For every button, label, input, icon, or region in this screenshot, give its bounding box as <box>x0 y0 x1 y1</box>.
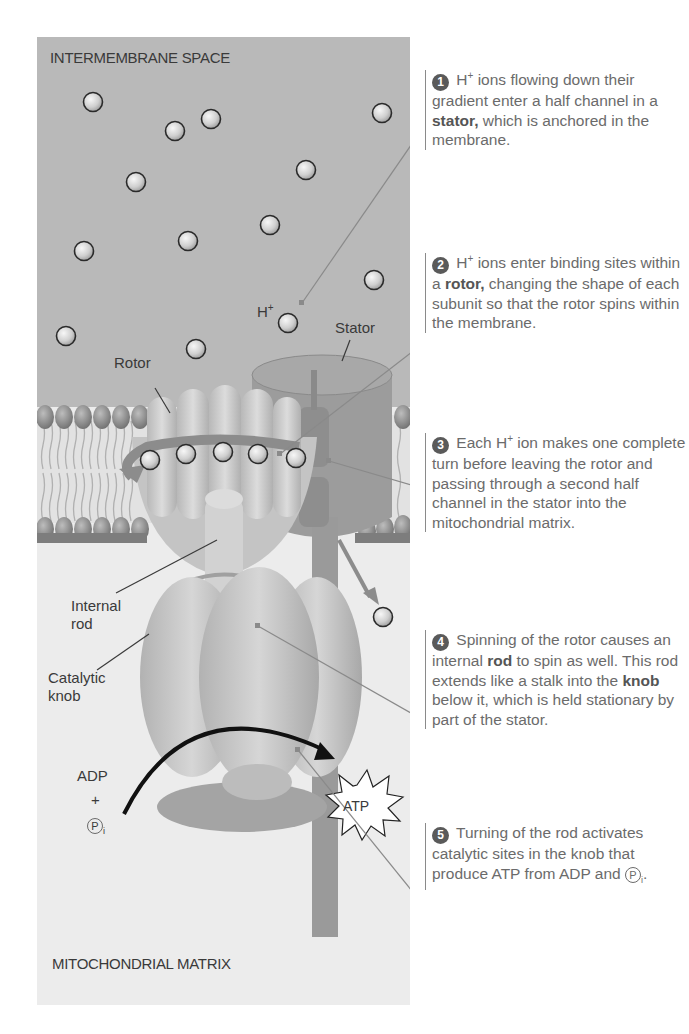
adp-label: ADP <box>77 767 108 785</box>
callout-step-5: 5 Turning of the rod activates catalytic… <box>425 823 689 890</box>
phosphate-label: Pi <box>87 816 105 840</box>
mitochondrial-matrix-label: MITOCHONDRIAL MATRIX <box>52 955 231 972</box>
intermembrane-space-label: INTERMEMBRANE SPACE <box>50 49 230 66</box>
step-number-badge: 3 <box>432 437 449 454</box>
step-number-badge: 1 <box>432 74 449 91</box>
internal-rod-label: Internalrod <box>71 597 121 633</box>
callout-step-3: 3 Each H+ ion makes one complete turn be… <box>425 433 689 532</box>
step-number-badge: 5 <box>432 827 449 844</box>
h-plus-label: H+ <box>257 303 274 321</box>
plus-sign: + <box>91 791 100 809</box>
rotor-label: Rotor <box>114 354 151 372</box>
catalytic-knob-label: Catalyticknob <box>48 669 106 705</box>
diagram-artwork <box>37 37 410 1005</box>
h-ion-exiting <box>374 608 393 627</box>
callout-step-1: 1 H+ ions flowing down their gradient en… <box>425 70 689 150</box>
callout-step-4: 4 Spinning of the rotor causes an intern… <box>425 630 689 729</box>
step-number-badge: 4 <box>432 634 449 651</box>
callout-step-2: 2 H+ ions enter binding sites within a r… <box>425 253 689 333</box>
atp-synthase-diagram: INTERMEMBRANE SPACE MITOCHONDRIAL MATRIX… <box>37 37 410 1005</box>
step-number-badge: 2 <box>432 257 449 274</box>
atp-label: ATP <box>343 797 369 815</box>
stator-label: Stator <box>335 319 375 337</box>
